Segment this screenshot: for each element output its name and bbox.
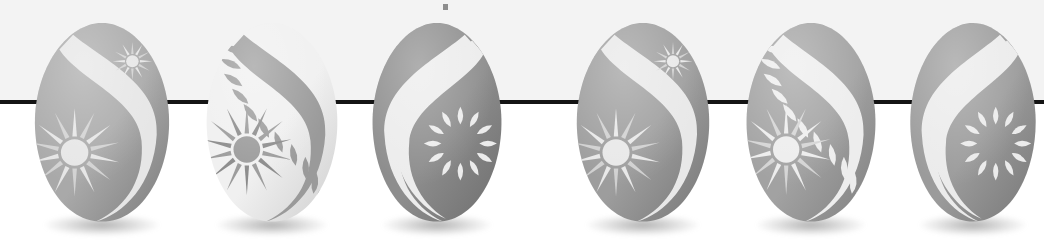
speck-mark <box>443 4 448 10</box>
egg-shape <box>198 20 346 226</box>
egg-shape <box>364 20 510 226</box>
egg-2 <box>198 20 346 226</box>
egg-ornaments <box>742 23 875 222</box>
egg-ornaments <box>202 23 337 222</box>
egg-shape <box>568 20 718 226</box>
egg-4 <box>568 20 718 226</box>
egg-5 <box>738 20 884 226</box>
egg-vine-star-medium-gray <box>738 20 884 226</box>
egg-3 <box>364 20 510 226</box>
egg-shape <box>902 20 1044 226</box>
egg-swirl-star-medium-gray <box>26 20 178 226</box>
egg-shape <box>26 20 178 226</box>
egg-ornaments <box>910 23 1035 222</box>
egg-ornaments <box>373 23 502 222</box>
egg-double-swirl-petal-ring-dark <box>364 20 510 226</box>
egg-swirl-star-medium-gray-2 <box>568 20 718 226</box>
egg-1 <box>26 20 178 226</box>
egg-6 <box>902 20 1044 226</box>
egg-vine-star-white <box>198 20 346 226</box>
egg-ornaments <box>30 23 169 222</box>
egg-shape <box>738 20 884 226</box>
egg-double-swirl-petal-ring-gray <box>902 20 1044 226</box>
egg-ornaments <box>572 23 709 222</box>
egg-illustration-canvas <box>0 0 1044 251</box>
